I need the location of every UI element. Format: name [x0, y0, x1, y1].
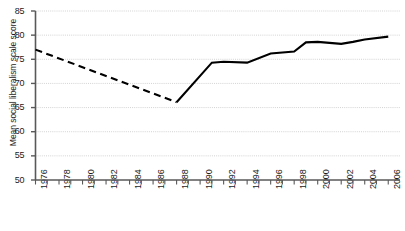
chart-container: Mean social liberalism scale score 50556… — [0, 0, 405, 231]
plot-area — [0, 0, 405, 231]
data-line-dashed — [36, 50, 177, 103]
gridline-group — [36, 11, 401, 156]
data-line-solid — [177, 37, 389, 103]
